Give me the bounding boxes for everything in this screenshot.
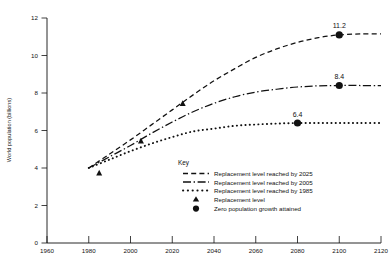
y-tick-label-6: 6 <box>35 127 39 134</box>
replacement-level-triangle-marker <box>96 170 102 176</box>
y-tick-label-4: 4 <box>35 164 39 171</box>
x-tick-label-1960: 1960 <box>40 247 54 254</box>
y-tick-label-10: 10 <box>31 52 38 59</box>
x-tick-label-2020: 2020 <box>165 247 179 254</box>
x-tick-label-1980: 1980 <box>82 247 96 254</box>
legend-label-2: Replacement level reached by 1985 <box>214 187 313 194</box>
legend-label-1: Replacement level reached by 2005 <box>214 179 313 186</box>
point-label-8-4: 8.4 <box>334 73 344 80</box>
triangle-marker-icon <box>193 196 199 201</box>
circle-marker-icon <box>193 206 199 212</box>
y-tick-label-2: 2 <box>35 202 39 209</box>
zero-growth-circle-marker <box>336 82 343 89</box>
zero-growth-circle-marker <box>294 119 301 126</box>
chart-svg: 12 10 8 6 4 2 0 World population (billio… <box>0 0 391 276</box>
series-line-replacement-2005 <box>89 85 381 168</box>
legend-entry-replacement-2025: Replacement level reached by 2025 <box>183 170 313 177</box>
legend-entry-replacement-1985: Replacement level reached by 1985 <box>183 187 313 194</box>
legend-title: Key <box>178 159 190 167</box>
point-label-6-4: 6.4 <box>293 111 303 118</box>
x-tick-label-2060: 2060 <box>249 247 263 254</box>
y-tick-label-12: 12 <box>31 14 38 21</box>
y-tick-label-8: 8 <box>35 89 39 96</box>
x-tick-label-2120: 2120 <box>374 247 388 254</box>
x-tick-label-2000: 2000 <box>124 247 138 254</box>
y-ticks <box>42 18 48 243</box>
x-tick-label-2040: 2040 <box>207 247 221 254</box>
population-projection-chart: 12 10 8 6 4 2 0 World population (billio… <box>0 0 391 276</box>
point-label-11-2: 11.2 <box>333 22 346 29</box>
x-axis: 1960 1980 2000 2020 2040 2060 2080 2100 … <box>40 236 388 254</box>
x-tick-label-2080: 2080 <box>291 247 305 254</box>
series-line-replacement-2025 <box>89 34 381 168</box>
series-line-replacement-1985 <box>89 123 381 168</box>
y-axis: 12 10 8 6 4 2 0 World population (billio… <box>6 14 47 246</box>
legend-label-4: Zero population growth attained <box>214 205 302 212</box>
replacement-level-markers <box>96 100 186 175</box>
y-axis-title: World population (billions) <box>6 98 12 162</box>
legend-entry-replacement-level: Replacement level <box>193 196 265 203</box>
y-tick-label-0: 0 <box>35 239 39 246</box>
data-series-group <box>89 34 381 168</box>
legend: Key Replacement level reached by 2025 Re… <box>178 159 313 212</box>
x-ticks <box>47 236 381 243</box>
legend-label-0: Replacement level reached by 2025 <box>214 170 313 177</box>
zero-growth-circle-marker <box>336 31 343 38</box>
legend-entry-zero-growth: Zero population growth attained <box>193 205 302 212</box>
legend-label-3: Replacement level <box>214 196 265 203</box>
x-tick-label-2100: 2100 <box>332 247 346 254</box>
legend-entry-replacement-2005: Replacement level reached by 2005 <box>183 179 313 186</box>
